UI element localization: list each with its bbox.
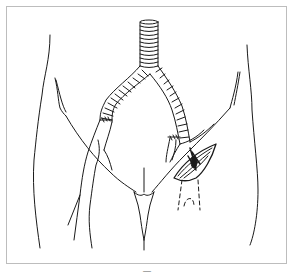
dashed-tunnel-lines <box>178 180 200 210</box>
body-outline-right <box>247 45 258 245</box>
graft-illustration <box>0 0 294 275</box>
body-outline-left <box>33 35 50 248</box>
left-anastomosis-sutures <box>100 117 112 122</box>
graft-trunk <box>140 20 158 68</box>
graft-left-limb <box>100 66 150 122</box>
figure-caption: — <box>0 266 294 275</box>
illustration-figure: — <box>0 0 294 275</box>
groin-incision <box>174 144 216 181</box>
hip-crease-left <box>66 116 136 192</box>
right-iliac-vessel <box>166 138 180 162</box>
left-iliac-vessel <box>74 120 100 240</box>
graft-right-limb <box>150 66 190 144</box>
